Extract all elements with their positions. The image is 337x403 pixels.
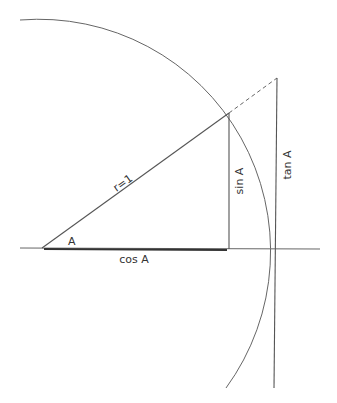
tan-line xyxy=(274,78,277,388)
cos-label: cos A xyxy=(119,253,149,266)
angle-label: A xyxy=(68,235,76,248)
unit-circle-diagram: r=1 A cos A sin A tan A xyxy=(0,0,337,403)
radius-line xyxy=(42,113,229,248)
radius-label: r=1 xyxy=(111,172,135,195)
cos-segment xyxy=(44,249,227,250)
radius-extension-dashed xyxy=(229,78,277,113)
unit-circle-arc xyxy=(20,19,271,388)
tan-label: tan A xyxy=(281,150,294,180)
sin-label: sin A xyxy=(233,167,246,194)
